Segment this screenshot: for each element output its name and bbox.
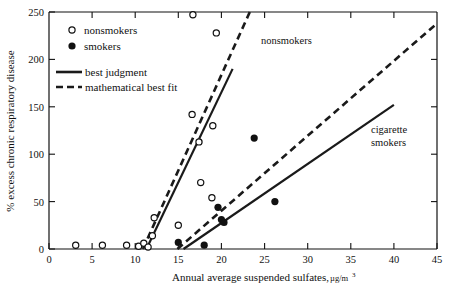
data-point-nonsmoker: [190, 12, 196, 18]
data-point-nonsmoker: [149, 233, 155, 239]
data-point-nonsmoker: [73, 242, 79, 248]
x-tick-label: 45: [432, 254, 443, 265]
data-point-smoker: [271, 198, 278, 205]
data-point-nonsmoker: [209, 195, 215, 201]
data-point-smoker: [214, 204, 221, 211]
data-point-nonsmoker: [175, 222, 181, 228]
x-tick-label: 0: [46, 254, 51, 265]
x-tick-label: 35: [346, 254, 357, 265]
y-tick-label: 0: [39, 244, 44, 255]
data-point-smoker: [251, 135, 258, 142]
x-axis-ticks-top: [92, 12, 394, 18]
x-tick-label: 15: [173, 254, 184, 265]
x-axis-ticks: [49, 243, 437, 249]
data-point-nonsmoker: [196, 139, 202, 145]
x-tick-labels: 0 5 10 15 20 25 30 35 40 45: [46, 254, 442, 265]
legend-label-mathematical-best-fit: mathematical best fit: [85, 81, 177, 93]
x-tick-label: 5: [89, 254, 94, 265]
x-tick-label: 40: [389, 254, 400, 265]
data-point-nonsmoker: [99, 242, 105, 248]
chart-svg: 0 5 10 15 20 25 30 35 40 45 0 50 100 150…: [0, 0, 455, 286]
x-tick-label: 10: [130, 254, 141, 265]
x-axis-unit: µg/m: [330, 273, 349, 283]
y-tick-label: 100: [28, 149, 44, 160]
data-point-nonsmoker: [145, 244, 151, 250]
data-point-nonsmoker: [151, 215, 157, 221]
data-point-smoker: [220, 219, 227, 226]
chart-legend: nonsmokers smokers best judgment mathema…: [56, 24, 177, 93]
x-tick-label: 20: [216, 254, 227, 265]
y-tick-label: 250: [28, 7, 44, 18]
y-axis-ticks-right: [431, 59, 437, 201]
data-point-nonsmoker: [213, 30, 219, 36]
legend-label-best-judgment: best judgment: [85, 66, 147, 78]
y-tick-label: 200: [28, 54, 44, 65]
x-tick-label: 25: [259, 254, 270, 265]
legend-marker-nonsmokers-icon: [69, 27, 75, 33]
y-tick-labels: 0 50 100 150 200 250: [28, 7, 44, 255]
y-axis-title: % excess chronic respiratory disease: [4, 50, 16, 211]
data-point-nonsmoker: [189, 111, 195, 117]
cigarette-smokers-curve-label-line2: smokers: [371, 137, 406, 148]
data-point-smoker: [175, 239, 182, 246]
legend-marker-smokers-icon: [68, 42, 75, 49]
legend-label-smokers: smokers: [84, 40, 121, 52]
cigarette-smokers-curve-label-line1: cigarette: [371, 124, 407, 135]
data-point-smoker: [201, 242, 208, 249]
y-axis-ticks: [49, 12, 55, 249]
legend-label-nonsmokers: nonsmokers: [84, 24, 137, 36]
data-point-nonsmoker: [124, 242, 130, 248]
series-smokers-points: [175, 135, 279, 249]
x-axis-title-main: Annual average suspended sulfates,: [172, 271, 329, 283]
data-point-nonsmoker: [198, 180, 204, 186]
data-point-nonsmoker: [210, 123, 216, 129]
nonsmokers-curve-label: nonsmokers: [261, 35, 312, 46]
chart-figure: 0 5 10 15 20 25 30 35 40 45 0 50 100 150…: [0, 0, 455, 286]
x-tick-label: 30: [302, 254, 313, 265]
x-axis-unit-exponent: 3: [352, 271, 356, 279]
y-tick-label: 150: [28, 102, 44, 113]
x-axis-title: Annual average suspended sulfates, µg/m …: [172, 271, 356, 283]
y-tick-label: 50: [34, 197, 45, 208]
